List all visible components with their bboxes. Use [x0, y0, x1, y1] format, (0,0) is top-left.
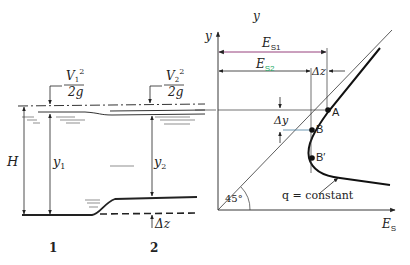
- velocity-head-1: V12: [66, 67, 84, 84]
- depth-1-label: y1: [52, 154, 65, 171]
- energy-line: [18, 104, 205, 106]
- velocity-head-2: V22: [166, 67, 184, 84]
- water-surface: [38, 112, 205, 115]
- top-y-label: y: [252, 9, 260, 23]
- y-axis-label: y: [204, 29, 212, 43]
- svg-text:2g: 2g: [167, 85, 184, 99]
- step-height-label: Δz: [154, 217, 171, 231]
- point-a-label: A: [332, 106, 340, 118]
- dz-label: Δz: [311, 65, 326, 78]
- total-head-label: H: [6, 154, 19, 169]
- water-hatch: [22, 117, 195, 207]
- dy-label: Δy: [273, 114, 289, 127]
- point-b-label: B: [316, 123, 323, 135]
- section-2-label: 2: [150, 241, 158, 255]
- angle-label: 45°: [225, 193, 243, 204]
- curve-label: q = constant: [282, 189, 354, 202]
- es2-label: ES2: [255, 57, 275, 73]
- specific-energy-diagram: H y1 y2 Δz V12 2g V22 2g 1 2 y y ES 45°: [0, 0, 410, 265]
- section-1-label: 1: [49, 241, 57, 255]
- specific-energy-curve: y y ES 45° A B B′ ES1 ES2 Δz Δy: [195, 9, 396, 233]
- x-axis-label: ES: [381, 217, 396, 233]
- es1-label: ES1: [261, 36, 281, 52]
- bed-datum-dashed: [100, 213, 197, 214]
- 45-degree-line: [218, 30, 392, 210]
- channel-bed: [22, 197, 197, 215]
- depth-2-label: y2: [153, 154, 166, 171]
- point-b-prime-label: B′: [316, 151, 325, 163]
- svg-text:2g: 2g: [67, 85, 84, 99]
- channel-step-diagram: H y1 y2 Δz V12 2g V22 2g 1 2: [6, 67, 205, 255]
